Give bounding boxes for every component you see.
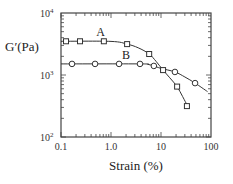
square-marker (161, 68, 166, 73)
x-axis-title: Strain (%) (109, 158, 163, 173)
series-line-b (61, 64, 208, 92)
x-tick-label: 0.1 (55, 141, 68, 152)
square-marker (147, 52, 152, 57)
square-marker (64, 39, 69, 44)
square-marker (175, 84, 180, 89)
x-tick-label: 1.0 (105, 141, 118, 152)
y-axis-label: G′(Pa) (5, 39, 39, 54)
series-label-a: A (96, 25, 105, 39)
circle-marker (151, 63, 157, 69)
strain-sweep-chart: G′(Pa) Strain (%) 0.11.010100102103104 A… (0, 0, 233, 184)
y-tick-label: 103 (40, 69, 54, 81)
axis-ticks (61, 13, 211, 137)
circle-marker (92, 61, 98, 67)
circle-marker (116, 61, 122, 67)
y-tick-label: 104 (40, 7, 54, 19)
series-label-b: B (122, 48, 130, 62)
plot-frame (61, 13, 211, 137)
series-curves (61, 41, 208, 108)
x-tick-label: 100 (204, 141, 219, 152)
x-axis-label: Strain (%) (109, 158, 163, 173)
square-marker (184, 104, 189, 109)
square-marker (101, 39, 106, 44)
square-marker (125, 42, 130, 47)
y-axis-title: G′(Pa) (5, 39, 39, 54)
circle-marker (69, 61, 75, 67)
tick-labels: 0.11.010100102103104 (40, 7, 219, 152)
x-tick-label: 10 (156, 141, 166, 152)
circle-marker (137, 61, 143, 67)
circle-marker (192, 80, 198, 86)
y-tick-label: 102 (40, 131, 54, 143)
series-markers (64, 39, 198, 109)
circle-marker (172, 69, 178, 75)
square-marker (78, 39, 83, 44)
